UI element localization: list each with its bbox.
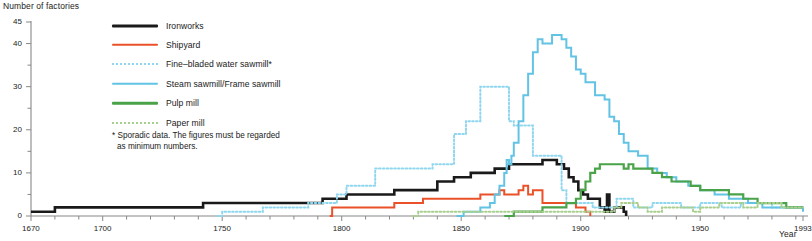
x-tick-label-1993: 1993 (794, 224, 812, 233)
y-axis-title: Number of factories (3, 1, 79, 11)
legend-label: Ironworks (166, 21, 204, 31)
x-tick-label-1750: 1750 (213, 224, 231, 233)
x-tick-label-1850: 1850 (452, 224, 470, 233)
legend-swatch-icon (112, 118, 158, 128)
legend-item-fine-bladed-water-sawmill[interactable]: Fine–bladed water sawmill* (112, 55, 372, 74)
legend-swatch-icon (112, 40, 158, 50)
legend-swatch-icon (112, 79, 158, 89)
x-tick-label-1670: 1670 (22, 224, 40, 233)
legend-label: Fine–bladed water sawmill* (166, 59, 272, 69)
legend-swatch-icon (112, 98, 158, 108)
y-tick-label-10: 10 (0, 168, 22, 177)
y-tick-label-45: 45 (0, 17, 22, 26)
legend-label: Steam sawmill/Frame sawmill (166, 79, 281, 89)
footnote-line-1: * Sporadic data. The figures must be reg… (112, 131, 280, 140)
series-line-steam-sawmill-frame-sawmill (456, 35, 803, 216)
x-tick-label-1900: 1900 (572, 224, 590, 233)
legend-item-shipyard[interactable]: Shipyard (112, 35, 372, 54)
legend-label: Paper mill (166, 118, 205, 128)
y-tick-label-40: 40 (0, 39, 22, 48)
footnote: * Sporadic data. The figures must be reg… (112, 131, 342, 152)
series-line-pulp-mill (504, 164, 803, 216)
y-tick-label-20: 20 (0, 125, 22, 134)
y-tick-label-0: 0 (0, 211, 22, 220)
legend-item-ironworks[interactable]: Ironworks (112, 16, 372, 35)
x-tick-label-1700: 1700 (94, 224, 112, 233)
legend-swatch-icon (112, 21, 158, 31)
legend-label: Pulp mill (166, 98, 199, 108)
chart-legend: IronworksShipyardFine–bladed water sawmi… (112, 16, 372, 132)
series-line-ironworks (31, 160, 626, 216)
x-tick-label-1950: 1950 (691, 224, 709, 233)
y-tick-label-30: 30 (0, 82, 22, 91)
cropped-header-text (385, 0, 805, 5)
legend-item-steam-sawmill-frame-sawmill[interactable]: Steam sawmill/Frame sawmill (112, 74, 372, 93)
footnote-line-2: as minimum numbers. (112, 142, 342, 153)
x-tick-label-1800: 1800 (333, 224, 351, 233)
legend-swatch-icon (112, 59, 158, 69)
legend-label: Shipyard (166, 40, 200, 50)
legend-item-paper-mill[interactable]: Paper mill (112, 113, 372, 132)
legend-item-pulp-mill[interactable]: Pulp mill (112, 94, 372, 113)
